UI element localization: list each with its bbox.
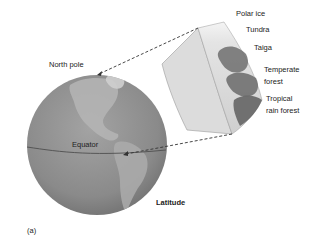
label-equator: Equator [72, 141, 98, 149]
label-polar-ice: Polar ice [236, 10, 265, 18]
panel-label: (a) [27, 227, 36, 235]
label-taiga: Taiga [254, 44, 272, 52]
label-tundra: Tundra [246, 26, 270, 34]
label-tropical-2: rain forest [266, 107, 299, 115]
label-north-pole: North pole [49, 61, 84, 69]
label-tropical-1: Tropical [266, 95, 292, 103]
label-temperate-2: forest [264, 78, 283, 86]
figure-title: Latitude [156, 199, 185, 207]
latitude-slice [162, 22, 262, 134]
label-temperate-1: Temperate [264, 66, 299, 74]
